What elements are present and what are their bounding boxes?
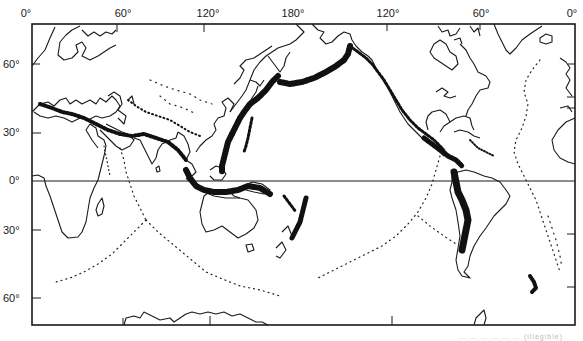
belt-central-america: [424, 138, 462, 166]
belt-tonga-kermadec: [292, 198, 306, 238]
coast-great-lakes: [436, 88, 456, 98]
belt-vanuatu: [284, 196, 296, 212]
belt-kuril-japan: [232, 76, 278, 134]
lat-label-60n: 60°: [3, 59, 20, 70]
belt-aleutians: [280, 46, 350, 84]
coast-alaska: [312, 24, 392, 96]
coast-africa-west-right: [552, 118, 575, 164]
coast-east-asia: [230, 24, 304, 112]
belt-indonesia: [186, 170, 270, 194]
coastlines: [32, 24, 575, 325]
lat-label-60s: 60°: [3, 293, 20, 304]
coast-europe-west-right: [560, 58, 572, 112]
longitude-ticks: [117, 24, 480, 325]
figure-caption: … … … … … … (illegible): [458, 333, 563, 340]
lon-label-60w: 60°: [473, 8, 490, 19]
ridge-east-africa-rift: [104, 146, 110, 176]
belt-caribbean: [470, 140, 494, 156]
coast-mexico: [426, 110, 450, 132]
coast-australia: [200, 190, 258, 238]
map-frame: [32, 24, 575, 325]
coast-kamchatka: [268, 52, 290, 72]
coast-antarctica: [124, 312, 268, 325]
coast-madagascar: [96, 198, 104, 216]
ridge-atlantic-south-right: [548, 216, 562, 268]
belt-philippines: [222, 134, 232, 172]
ridge-asia-scatter: [150, 80, 212, 114]
lat-label-30n: 30°: [3, 127, 20, 138]
ridge-sw-indian: [56, 220, 146, 282]
coast-europe-north: [32, 26, 116, 66]
coast-caribbean: [454, 130, 480, 138]
ridge-se-indian: [146, 220, 280, 296]
coast-tasmania: [246, 244, 254, 252]
lon-label-120e: 120°: [197, 8, 220, 19]
lon-label-120w: 120°: [377, 8, 400, 19]
coast-iceland: [540, 34, 552, 44]
belt-alaska-na: [350, 46, 448, 156]
lat-label-30s: 30°: [3, 225, 20, 236]
lon-label-60e: 60°: [115, 8, 132, 19]
lon-label-180: 180°: [282, 8, 305, 19]
ridge-chile-rise: [418, 216, 456, 244]
coast-canada: [430, 40, 458, 70]
coast-newzealand: [276, 226, 292, 258]
lon-label-0-west: 0°: [21, 8, 32, 19]
coast-arctic-islands: [438, 26, 480, 44]
belt-alpide: [40, 104, 186, 160]
lon-label-0-east: 0°: [567, 8, 578, 19]
map-canvas: [0, 0, 583, 341]
epicenter-clusters: [40, 46, 536, 292]
ridge-east-pacific: [318, 156, 440, 278]
seismicity-map: 0° 60° 120° 180° 120° 60° 0° 60° 30° 0° …: [0, 0, 583, 341]
coast-canada-east: [460, 44, 490, 116]
belt-izu-marianas: [244, 118, 252, 152]
coast-okhotsk: [234, 46, 272, 86]
coast-antarctic-peninsula: [474, 310, 486, 325]
ridge-epicenters: [56, 60, 562, 296]
coast-greenland: [494, 24, 542, 54]
coast-srilanka: [156, 166, 160, 172]
lat-label-equator: 0°: [9, 175, 20, 186]
ridge-mid-atlantic: [514, 60, 560, 272]
belt-central-asia: [128, 100, 200, 136]
belt-scotia: [530, 276, 536, 292]
coast-gulf: [450, 116, 474, 130]
ridge-indian-central: [120, 148, 146, 220]
coast-mediterranean: [32, 96, 120, 122]
